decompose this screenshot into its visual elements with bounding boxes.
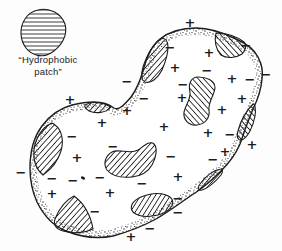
- negative-charge: −: [108, 139, 119, 154]
- negative-charge: −: [225, 127, 236, 142]
- positive-charge: +: [204, 45, 215, 60]
- positive-charge: +: [65, 92, 76, 107]
- negative-charge: −: [202, 63, 213, 78]
- negative-charge: −: [173, 205, 184, 220]
- negative-charge: −: [139, 91, 150, 106]
- figure: +−+−+−−+−+−+−+−−+−++++−+−+−+−+−+−−−++−−−…: [0, 0, 282, 251]
- protein-surface-diagram: +−+−+−−+−+−+−+−−+−++++−+−+−+−+−+−−−++−−−…: [0, 0, 282, 251]
- negative-charge: −: [95, 170, 106, 185]
- negative-charge: −: [261, 67, 272, 82]
- positive-charge: +: [47, 186, 58, 201]
- negative-charge: −: [47, 171, 58, 186]
- negative-charge: −: [241, 38, 252, 53]
- negative-charge: −: [16, 165, 27, 180]
- positive-charge: +: [185, 15, 196, 30]
- positive-charge: +: [177, 90, 188, 105]
- negative-charge: −: [137, 176, 148, 191]
- positive-charge: +: [97, 115, 108, 130]
- negative-charge: −: [67, 129, 78, 144]
- negative-charge: −: [208, 152, 219, 167]
- positive-charge: +: [72, 150, 83, 165]
- negative-charge: −: [173, 191, 184, 206]
- positive-charge: +: [227, 71, 238, 86]
- label-line2: patch”: [34, 66, 62, 77]
- positive-charge: +: [203, 125, 214, 140]
- negative-charge: −: [165, 40, 176, 55]
- negative-charge: −: [90, 204, 101, 219]
- negative-charge: −: [68, 173, 79, 188]
- positive-charge: +: [170, 60, 181, 75]
- positive-charge: +: [126, 229, 137, 244]
- negative-charge: −: [245, 72, 256, 87]
- positive-charge: +: [159, 119, 170, 134]
- positive-charge: +: [105, 185, 116, 200]
- negative-charge: −: [166, 149, 177, 164]
- positive-charge: +: [173, 169, 184, 184]
- positive-charge: +: [237, 91, 248, 106]
- positive-charge: +: [220, 144, 231, 159]
- negative-charge: −: [122, 74, 133, 89]
- label-line1: “Hydrophobic: [19, 54, 78, 65]
- positive-charge: +: [217, 102, 228, 117]
- positive-charge: +: [122, 103, 133, 118]
- hydrophobic-patch-legend: [21, 9, 66, 55]
- positive-charge: +: [247, 137, 258, 152]
- negative-charge: −: [145, 221, 156, 236]
- hydrophobic-patch-label: “Hydrophobic patch”: [6, 54, 90, 77]
